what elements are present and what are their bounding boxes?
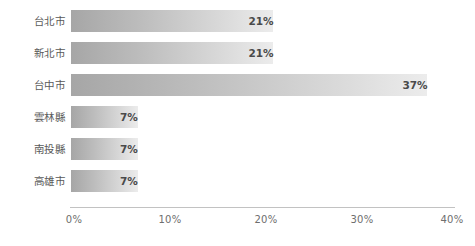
bar-track-1: 21% [71, 42, 470, 64]
category-label-2: 台中市 [0, 74, 65, 96]
table-row[interactable]: 新北市 21% [0, 42, 475, 64]
table-row[interactable]: 台中市 37% [0, 74, 475, 96]
bar-rows: 台北市 21% 新北市 21% 台中市 37% 雲林縣 7% [0, 10, 475, 202]
x-tick-label-3: 30% [332, 214, 392, 225]
bar-chart: 台北市 21% 新北市 21% 台中市 37% 雲林縣 7% [0, 0, 475, 246]
x-axis-line [70, 207, 455, 208]
x-tick-label-2: 20% [236, 214, 296, 225]
bar-value-3: 7% [120, 106, 138, 128]
bar-value-0: 21% [249, 10, 274, 32]
bar-track-0: 21% [71, 10, 470, 32]
bar-value-2: 37% [403, 74, 428, 96]
bar-1[interactable] [71, 42, 273, 64]
table-row[interactable]: 高雄市 7% [0, 170, 475, 192]
category-label-0: 台北市 [0, 10, 65, 32]
x-axis-tick-labels: 0% 10% 20% 30% 40% [0, 214, 475, 230]
bar-track-3: 7% [71, 106, 470, 128]
x-tick-label-4: 40% [422, 214, 475, 225]
bar-2[interactable] [71, 74, 427, 96]
bar-track-2: 37% [71, 74, 470, 96]
bar-value-5: 7% [120, 170, 138, 192]
bar-track-4: 7% [71, 138, 470, 160]
category-label-5: 高雄市 [0, 170, 65, 192]
category-label-3: 雲林縣 [0, 106, 65, 128]
table-row[interactable]: 台北市 21% [0, 10, 475, 32]
table-row[interactable]: 雲林縣 7% [0, 106, 475, 128]
x-tick-label-1: 10% [140, 214, 200, 225]
category-label-1: 新北市 [0, 42, 65, 64]
x-tick-label-0: 0% [44, 214, 104, 225]
bar-0[interactable] [71, 10, 273, 32]
table-row[interactable]: 南投縣 7% [0, 138, 475, 160]
category-label-4: 南投縣 [0, 138, 65, 160]
bar-value-1: 21% [249, 42, 274, 64]
bar-track-5: 7% [71, 170, 470, 192]
bar-value-4: 7% [120, 138, 138, 160]
